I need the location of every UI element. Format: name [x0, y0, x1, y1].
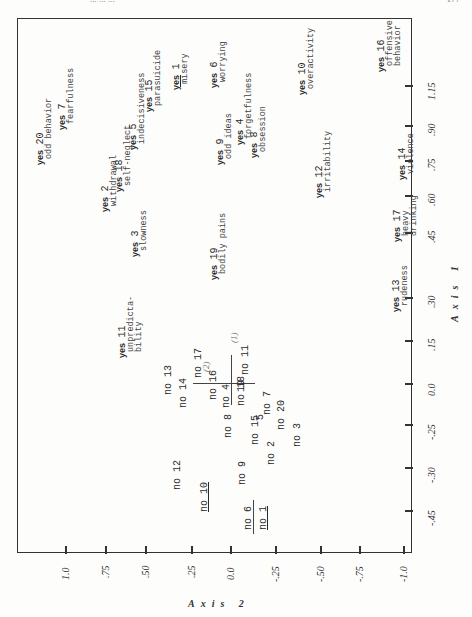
- point-no-17: no 17: [193, 348, 204, 378]
- tick-mark: [405, 383, 413, 385]
- tick-mark: [230, 546, 232, 554]
- axis1-tick-label: .60: [426, 194, 437, 207]
- tick-mark: [405, 467, 413, 469]
- divider-line: [253, 500, 254, 534]
- axis1-tick-label: .90: [426, 124, 437, 137]
- axis1-tick-label: .30: [426, 296, 437, 309]
- axis2-tick-label: .25: [186, 566, 197, 579]
- point-yes-17: yes 17heavydrinking: [393, 195, 418, 242]
- axis2-tick-label: 1.0: [60, 568, 71, 581]
- tick-mark: [145, 546, 147, 554]
- point-no-15: no 15: [250, 415, 261, 445]
- axis1-tick-label: .15: [426, 339, 437, 352]
- point-yes-3: yes 3slowness: [131, 210, 148, 257]
- point-yes-1: yes 1misery: [172, 53, 189, 90]
- tick-mark: [105, 546, 107, 554]
- point-no-14: no 14: [178, 378, 189, 408]
- axis2-tick-label: -.50: [315, 566, 326, 582]
- point-yes-10: yes 10overactivity: [298, 28, 315, 95]
- point-yes-16: yes 16offensivebehavior: [377, 20, 402, 72]
- plot-frame: [17, 18, 412, 553]
- axis1-tick-label: 1.15: [426, 83, 437, 101]
- tick-mark: [275, 546, 277, 554]
- point-no-12: no 12: [172, 460, 183, 490]
- axis1-title: Axis 1: [449, 260, 460, 322]
- point-no-16: no 16: [208, 370, 219, 400]
- point-yes-19: yes 19bodily pains: [210, 213, 227, 280]
- tick-mark: [65, 546, 67, 554]
- axis1-tick-label: -.30: [426, 467, 437, 483]
- point-yes-9: yes 9odd ideas: [216, 113, 233, 165]
- point-no-9: no 9: [237, 461, 248, 485]
- axis2-tick-label: 0.0: [225, 568, 236, 581]
- point-yes-13: yes 13rudeness: [392, 265, 409, 312]
- tick-mark: [191, 546, 193, 554]
- point-yes-14: yes 14violence: [398, 133, 415, 180]
- page-number: 177: [447, 0, 461, 4]
- axis1-tick-label: .75: [426, 159, 437, 172]
- point-no-13: no 13: [163, 365, 174, 395]
- axis1-tick-label: 0.0: [426, 384, 437, 397]
- axis1-tick-label: .45: [426, 231, 437, 244]
- tick-mark: [359, 546, 361, 554]
- point-no-4: no 4: [221, 384, 232, 408]
- running-title: ... ... ...: [90, 0, 115, 4]
- point-yes-6: yes 6worrying: [210, 41, 227, 88]
- axis2-tick-label: -1.0: [398, 566, 409, 582]
- point-no-10: no 10: [199, 482, 210, 512]
- axis2-tick-label: .50: [140, 566, 151, 579]
- tick-mark: [320, 546, 322, 554]
- tick-mark: [405, 340, 413, 342]
- tick-mark: [405, 125, 413, 127]
- point-yes-7: yes 7fearfulness: [58, 68, 75, 130]
- point-no-8: no 8: [223, 414, 234, 438]
- axis2-tick-label: -.25: [270, 566, 281, 582]
- tick-mark: [403, 546, 405, 554]
- tick-mark: [405, 85, 413, 87]
- point-yes-12: yes 12irritability: [315, 131, 332, 198]
- axis1-tick-label: -.25: [426, 424, 437, 440]
- point-yes-11: yes 11unpredicta-bility: [118, 296, 143, 358]
- point-no-3: no 3: [292, 423, 303, 447]
- tick-mark: [405, 424, 413, 426]
- point-yes-15: yes 15parasuicide: [145, 50, 162, 112]
- point-no-1: no 1: [258, 506, 269, 530]
- axis2-title: Axis 2: [188, 598, 250, 609]
- point-no-18: no 18: [236, 376, 247, 406]
- point-no-11: no 11: [240, 345, 251, 375]
- axis1-tick-label: -.45: [426, 510, 437, 526]
- point-no-7: no 7: [262, 391, 273, 415]
- point-no-20: no 20: [276, 400, 287, 430]
- point-no-2: no 2: [266, 441, 277, 465]
- annotation-1: (1): [229, 333, 239, 344]
- axis2-tick-label: .75: [100, 566, 111, 579]
- point-yes-20: yes 20odd behavior: [36, 98, 53, 165]
- page-header: ... ... ... 177: [90, 0, 460, 4]
- tick-mark: [405, 510, 413, 512]
- point-yes-8: yes 8obsession: [250, 106, 267, 158]
- axis2-tick-label: -.75: [354, 566, 365, 582]
